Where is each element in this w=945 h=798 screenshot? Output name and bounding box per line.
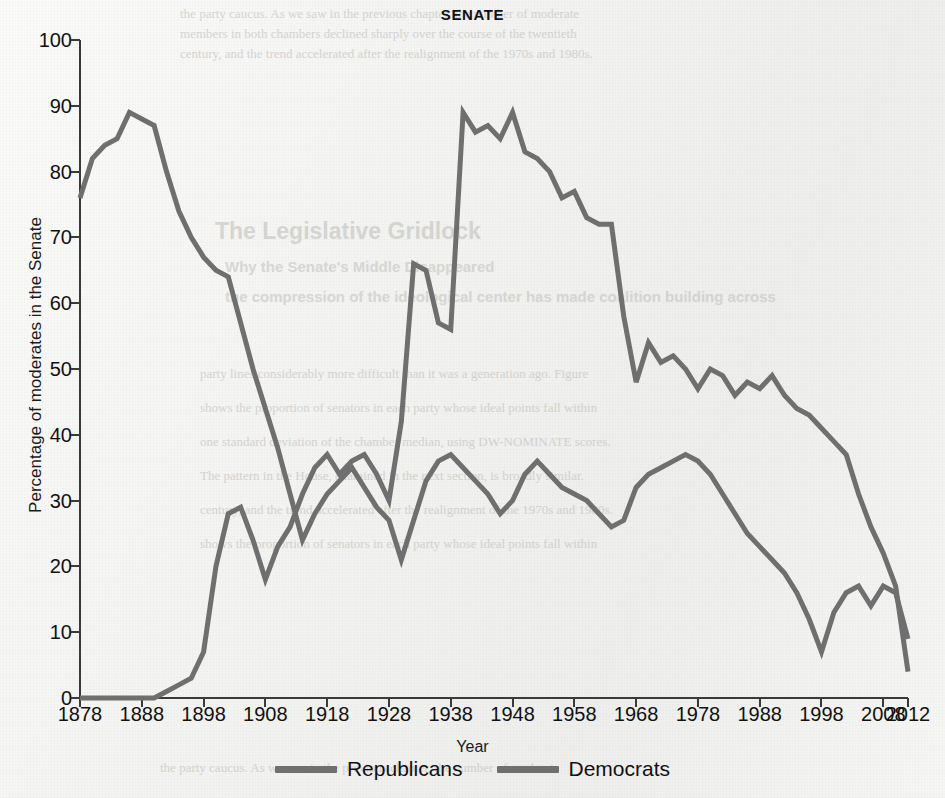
legend-entry-democrats[interactable]: Democrats [497,757,671,781]
legend-label-republicans: Republicans [347,757,463,781]
legend-entry-republicans[interactable]: Republicans [275,757,463,781]
axis-lines [80,40,908,698]
series-line-republicans [80,112,908,652]
legend-swatch-republicans [275,766,337,773]
x-tick-label: 2012 [868,703,945,726]
axis-ticks [71,40,908,707]
chart-legend: Republicans Democrats [0,757,945,781]
legend-swatch-democrats [497,766,559,773]
data-series [80,112,908,698]
senate-moderates-line-chart: SENATE Percentage of moderates in the Se… [0,0,945,798]
series-line-democrats [80,112,908,698]
plot-area [0,0,945,798]
legend-label-democrats: Democrats [569,757,671,781]
